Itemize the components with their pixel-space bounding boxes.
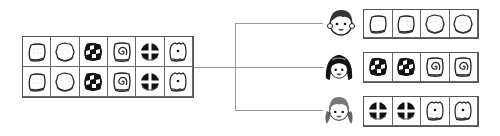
connector-main	[194, 67, 324, 68]
spiral-candy-icon	[108, 37, 136, 67]
connector-girl-pigtails	[235, 110, 323, 111]
dotted-cracker-icon	[421, 97, 450, 126]
dotted-cracker-icon	[165, 37, 193, 67]
spiral-candy-icon	[108, 67, 136, 97]
spiral-candy-icon	[450, 53, 479, 82]
square-cracker-icon	[364, 10, 393, 38]
boy-snack-grid	[363, 9, 479, 39]
boy-face-icon	[326, 7, 356, 39]
connector-boy	[235, 23, 323, 24]
cross-candy-icon	[136, 37, 164, 67]
square-cracker-icon	[393, 10, 422, 38]
cross-candy-icon	[364, 97, 393, 126]
cross-candy-icon	[393, 97, 422, 126]
checkered-candy-icon	[80, 67, 108, 97]
round-cookie-icon	[450, 10, 479, 38]
girl-dark-hair-snack-grid	[363, 52, 479, 83]
round-cookie-icon	[421, 10, 450, 38]
cross-candy-icon	[136, 67, 164, 97]
square-cracker-icon	[23, 37, 51, 67]
source-snack-grid	[22, 36, 194, 98]
girl-dark-hair-face-icon	[324, 51, 354, 83]
checkered-candy-icon	[393, 53, 422, 82]
checkered-candy-icon	[364, 53, 393, 82]
round-cookie-icon	[51, 37, 79, 67]
spiral-candy-icon	[421, 53, 450, 82]
square-cracker-icon	[23, 67, 51, 97]
girl-pigtails-snack-grid	[363, 96, 479, 127]
dotted-cracker-icon	[450, 97, 479, 126]
round-cookie-icon	[51, 67, 79, 97]
dotted-cracker-icon	[165, 67, 193, 97]
girl-pigtails-face-icon	[324, 94, 354, 126]
checkered-candy-icon	[80, 37, 108, 67]
connector-vertical	[235, 23, 236, 111]
